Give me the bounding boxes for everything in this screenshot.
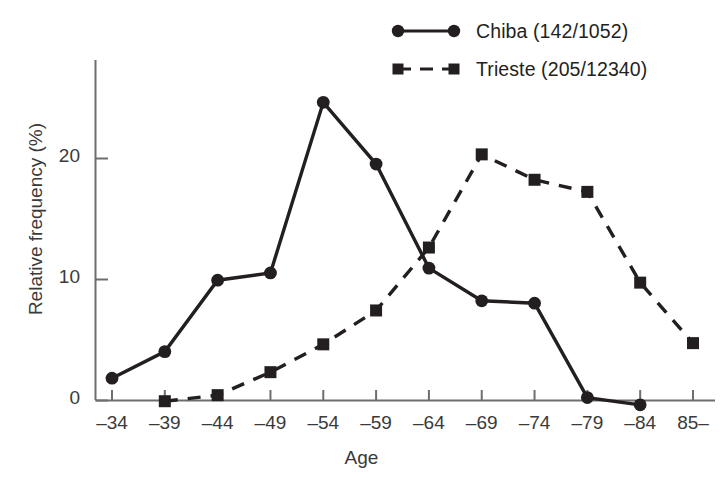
- legend-label-chiba: Chiba (142/1052): [462, 20, 628, 43]
- x-tick-label: –54: [293, 412, 353, 434]
- legend-item-trieste: Trieste (205/12340): [390, 54, 647, 84]
- data-point-marker: [634, 277, 646, 289]
- x-tick-label: –64: [399, 412, 459, 434]
- series-line: [112, 102, 640, 405]
- data-point-marker: [581, 391, 594, 404]
- legend-swatch-circle-solid-line: [390, 19, 462, 43]
- data-point-marker: [529, 174, 541, 186]
- data-point-marker: [317, 338, 329, 350]
- data-point-marker: [159, 395, 171, 407]
- data-point-marker: [212, 389, 224, 401]
- data-point-marker: [370, 304, 382, 316]
- y-tick-label: 0: [36, 387, 80, 409]
- data-point-marker: [687, 337, 699, 349]
- data-point-marker: [634, 398, 647, 411]
- chart-figure: 01020 –34–39–44–49–54–59–64–69–74–79–848…: [0, 0, 723, 484]
- data-point-marker: [158, 345, 171, 358]
- data-point-marker: [264, 366, 276, 378]
- x-tick-label: –59: [346, 412, 406, 434]
- data-point-marker: [423, 242, 435, 254]
- legend-label-trieste: Trieste (205/12340): [462, 58, 647, 81]
- data-point-marker: [476, 148, 488, 160]
- chart-legend: Chiba (142/1052) Trieste (205/12340): [390, 14, 710, 88]
- x-tick-label: –84: [610, 412, 670, 434]
- data-point-marker: [211, 274, 224, 287]
- data-point-marker: [106, 372, 119, 385]
- legend-swatch-square-dashed-line: [390, 57, 462, 81]
- x-tick-label: –69: [452, 412, 512, 434]
- x-tick-label: –34: [82, 412, 142, 434]
- y-axis-ticks: [96, 159, 109, 401]
- x-tick-label: –39: [135, 412, 195, 434]
- data-point-marker: [528, 297, 541, 310]
- x-tick-label: –79: [557, 412, 617, 434]
- series-chiba: [106, 96, 647, 411]
- data-series-layer: [106, 96, 699, 411]
- data-point-marker: [581, 186, 593, 198]
- x-tick-label: –44: [188, 412, 248, 434]
- x-tick-label: 85–: [663, 412, 723, 434]
- legend-item-chiba: Chiba (142/1052): [390, 16, 628, 46]
- x-axis-title: Age: [0, 447, 723, 469]
- data-point-marker: [475, 294, 488, 307]
- x-tick-label: –49: [240, 412, 300, 434]
- data-point-marker: [264, 267, 277, 280]
- y-axis-title: Relative frequency (%): [25, 89, 47, 349]
- data-point-marker: [423, 262, 436, 275]
- data-point-marker: [370, 158, 383, 171]
- data-point-marker: [317, 96, 330, 109]
- x-tick-label: –74: [505, 412, 565, 434]
